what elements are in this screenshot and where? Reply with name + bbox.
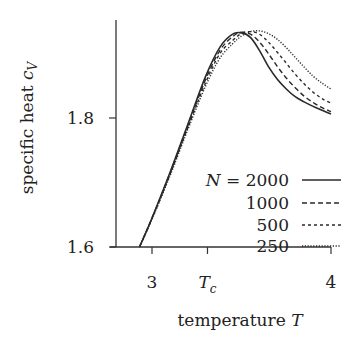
y-tick-label: 1.8 — [67, 108, 94, 128]
x-tick-label: Tc — [198, 272, 216, 296]
legend-label-n2000: N = 2000 — [205, 170, 289, 190]
legend-label-n1000: 1000 — [246, 193, 289, 213]
legend: N = 20001000500250 — [205, 170, 341, 256]
legend-label-n500: 500 — [257, 215, 289, 235]
y-axis-label: specific heat cV — [17, 60, 40, 194]
data-series — [140, 31, 332, 247]
specific-heat-chart: 3Tc4 1.61.8 temperature T specific heat … — [0, 0, 359, 345]
x-tick-label: 3 — [147, 272, 158, 292]
series-line-n500 — [140, 32, 332, 247]
y-ticks: 1.61.8 — [67, 108, 116, 257]
x-ticks: 3Tc4 — [147, 247, 337, 296]
legend-label-n250: 250 — [257, 236, 289, 256]
x-tick-label: 4 — [326, 272, 337, 292]
x-axis-label: temperature T — [178, 310, 305, 330]
series-line-n250 — [140, 31, 332, 247]
y-tick-label: 1.6 — [67, 237, 94, 257]
